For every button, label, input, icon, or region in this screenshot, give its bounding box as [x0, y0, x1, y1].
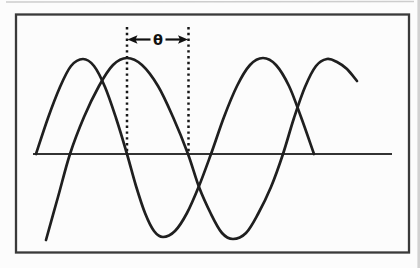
figure-canvas: θ	[0, 0, 420, 268]
scan-artifact-top	[6, 2, 414, 3]
phase-angle-label: θ	[153, 32, 163, 48]
phase-difference-diagram: θ	[0, 0, 420, 268]
paper-background	[0, 0, 420, 268]
